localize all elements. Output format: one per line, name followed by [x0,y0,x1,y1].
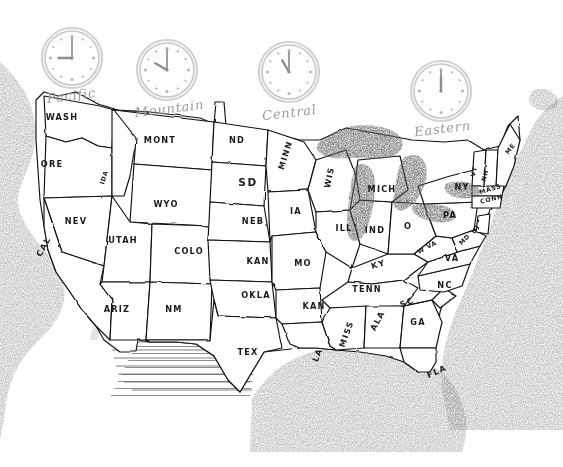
state-label-ny: NY [454,182,469,192]
state-label-pa: PA [443,210,457,220]
state-minn [266,130,316,192]
time-zone-map: PacificMountainCentralEastern WASHOREIDA… [0,0,563,467]
state-label-tex: TEX [237,347,258,357]
state-label-colo: COLO [174,246,204,256]
clock-central [259,42,319,102]
lake-superior [317,126,402,159]
state-label-ore: ORE [41,159,63,169]
nova-scotia [529,89,558,111]
state-label-nd: ND [229,135,245,145]
state-label-nc: NC [437,280,452,290]
state-label-wash: WASH [46,112,79,122]
state-label-kan: KAN [302,301,325,311]
state-label-sd: SD [238,176,257,188]
state-label-tenn: TENN [352,284,382,294]
state-label-mont: MONT [144,135,176,145]
state-label-wyo: WYO [153,199,178,209]
state-label-ga: GA [410,317,425,327]
state-label-ind: IND [365,225,385,235]
state-label-ill: ILL [335,223,352,233]
clock-mountain [137,40,197,100]
state-label-va: VA [445,253,460,263]
state-nj [476,214,490,234]
map-canvas: PacificMountainCentralEastern WASHOREIDA… [0,0,563,467]
state-label-ia: IA [290,206,302,216]
state-label-nev: NEV [65,216,87,226]
state-label-o: O [404,221,412,231]
state-label-neb: NEB [242,216,264,226]
state-label-okla: OKLA [241,290,271,300]
state-label-kan: KAN [246,256,269,266]
state-wyo [130,164,212,226]
zone-label-central: Central [261,102,317,124]
state-label-ariz: ARIZ [104,304,130,314]
zone-label-eastern: Eastern [412,118,471,140]
state-label-nm: NM [165,304,182,314]
clock-pacific [42,28,102,88]
state-label-utah: UTAH [108,235,138,245]
state-label-mich: MICH [368,184,397,194]
clock-eastern [411,61,471,121]
state-label-mo: MO [294,258,312,268]
